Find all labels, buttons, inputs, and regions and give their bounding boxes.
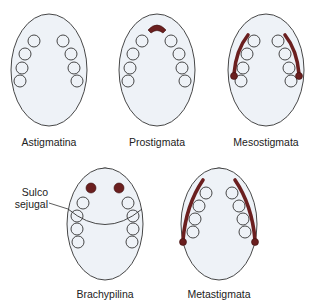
annotation-line1: Sulco xyxy=(22,186,48,198)
panel-prostigmata: Prostigmata xyxy=(119,14,195,148)
idiosoma xyxy=(228,14,304,126)
label-metastigmata: Metastigmata xyxy=(187,288,250,300)
label-astigmatina: Astigmatina xyxy=(22,136,77,148)
annotation-line2: sejugal xyxy=(15,198,48,210)
annotation-leader xyxy=(49,203,68,209)
panel-metastigmata: Metastigmata xyxy=(180,168,259,300)
idiosoma xyxy=(67,168,143,280)
diagram: Astigmatina Prostigmata Mesostigmata xyxy=(0,0,311,305)
idiosoma xyxy=(11,14,87,126)
label-brachypilina: Brachypilina xyxy=(76,288,133,300)
label-prostigmata: Prostigmata xyxy=(129,136,185,148)
panel-brachypilina: Sulco sejugal Brachypilina xyxy=(15,168,143,300)
spot-right xyxy=(114,183,124,193)
panel-astigmatina: Astigmatina xyxy=(11,14,87,148)
label-mesostigmata: Mesostigmata xyxy=(233,136,299,148)
spot-left xyxy=(86,183,96,193)
panel-mesostigmata: Mesostigmata xyxy=(228,14,304,148)
